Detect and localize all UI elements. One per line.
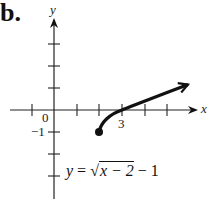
y-axis-label: y (50, 2, 56, 18)
graph-figure: b. (0, 0, 208, 199)
x-tick-label-3: 3 (118, 116, 125, 132)
x-axis-label: x (201, 101, 207, 117)
start-point (95, 128, 103, 136)
function-curve (99, 85, 187, 132)
sqrt-symbol: √ (90, 162, 99, 179)
y-tick-label-neg1: −1 (31, 124, 45, 140)
equation-label: y = √x − 2 − 1 (66, 162, 159, 180)
